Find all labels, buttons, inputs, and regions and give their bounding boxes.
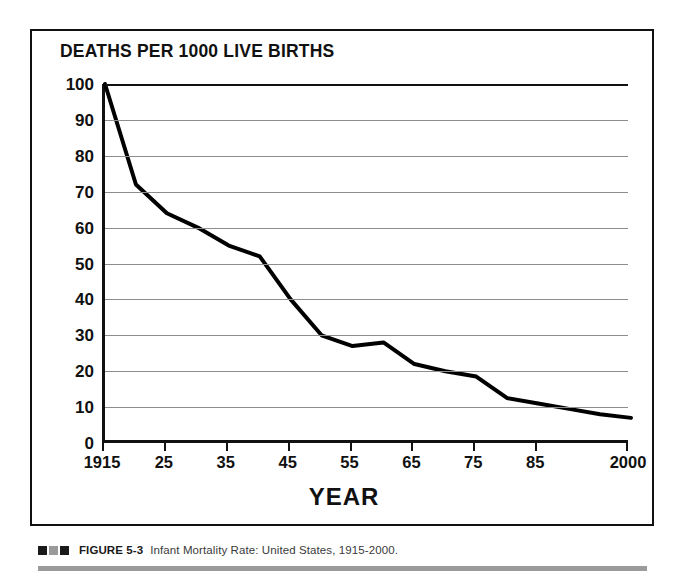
x-axis-tick-marks: [102, 443, 628, 453]
x-tick-label-65: 65: [402, 453, 420, 472]
figure-caption: FIGURE 5-3 Infant Mortality Rate: United…: [38, 542, 398, 558]
x-tick-label-35: 35: [217, 453, 235, 472]
y-tick-label-70: 70: [38, 183, 94, 200]
x-tick-label-1915: 1915: [84, 453, 121, 472]
x-tick-mark-65: [411, 443, 413, 451]
y-axis-tick-labels: 1009080706050403020100: [32, 84, 94, 443]
gridline-40: [105, 299, 628, 300]
x-tick-mark-75: [473, 443, 475, 451]
y-tick-label-10: 10: [38, 399, 94, 416]
gridline-70: [105, 192, 628, 193]
x-axis-title: YEAR: [32, 483, 656, 511]
caption-description: Infant Mortality Rate: United States, 19…: [150, 544, 398, 556]
gridline-100: [105, 84, 628, 86]
x-tick-mark-1915: [102, 443, 104, 451]
caption-square-3: [60, 546, 69, 555]
caption-square-1: [38, 546, 47, 555]
x-tick-label-2000: 2000: [610, 453, 647, 472]
y-tick-label-80: 80: [38, 147, 94, 164]
x-tick-label-55: 55: [340, 453, 358, 472]
gridline-20: [105, 371, 628, 372]
y-tick-label-90: 90: [38, 111, 94, 128]
x-tick-label-25: 25: [155, 453, 173, 472]
x-tick-label-75: 75: [464, 453, 482, 472]
y-tick-label-20: 20: [38, 363, 94, 380]
gridline-30: [105, 335, 628, 336]
caption-figure-number: FIGURE 5-3: [79, 544, 143, 556]
y-tick-label-0: 0: [38, 435, 94, 452]
gridline-80: [105, 156, 628, 157]
gridline-60: [105, 228, 628, 229]
x-axis-tick-labels: 1915253545556575852000: [102, 453, 628, 477]
caption-square-2: [49, 546, 58, 555]
caption-divider-rule: [38, 566, 647, 571]
y-tick-label-30: 30: [38, 327, 94, 344]
figure-frame: DEATHS PER 1000 LIVE BIRTHS 100908070605…: [30, 29, 654, 526]
gridline-90: [105, 120, 628, 121]
y-tick-label-100: 100: [38, 76, 94, 93]
y-tick-label-40: 40: [38, 291, 94, 308]
plot-area: [102, 84, 628, 443]
infant-mortality-line: [105, 84, 631, 418]
x-tick-mark-45: [288, 443, 290, 451]
chart-title: DEATHS PER 1000 LIVE BIRTHS: [60, 41, 334, 62]
gridline-10: [105, 407, 628, 408]
y-tick-label-60: 60: [38, 219, 94, 236]
x-tick-label-85: 85: [526, 453, 544, 472]
x-tick-mark-25: [164, 443, 166, 451]
x-tick-mark-85: [535, 443, 537, 451]
gridline-50: [105, 264, 628, 265]
x-tick-mark-55: [350, 443, 352, 451]
x-tick-label-45: 45: [278, 453, 296, 472]
x-tick-mark-35: [226, 443, 228, 451]
x-tick-mark-2000: [626, 443, 628, 451]
y-tick-label-50: 50: [38, 255, 94, 272]
